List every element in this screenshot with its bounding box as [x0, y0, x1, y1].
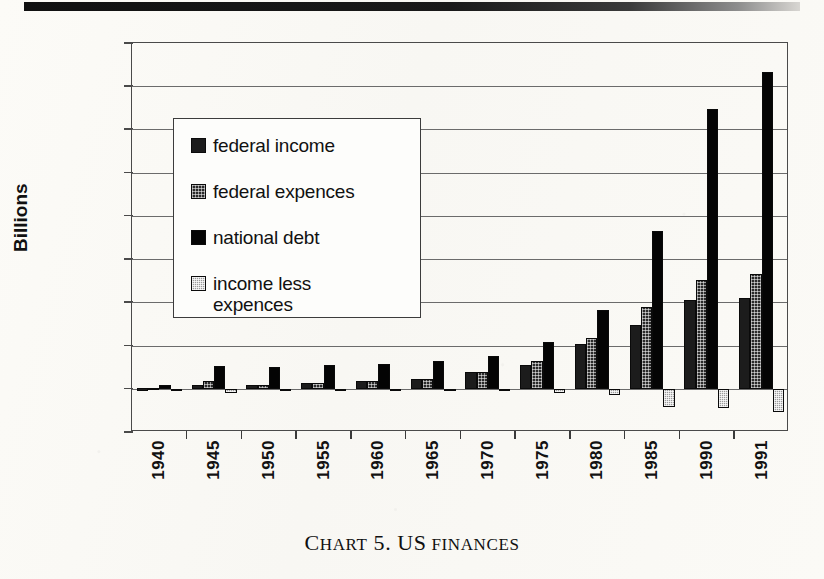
x-tick-mark [460, 431, 462, 439]
bar-1950-income-less-expences [280, 389, 291, 392]
bar-1970-federal-income [465, 372, 476, 389]
x-tick-mark [295, 431, 297, 439]
legend-label: national debt [213, 227, 319, 248]
bar-1991-federal-income [739, 298, 750, 389]
bar-1965-national-debt [433, 361, 444, 389]
caption-tail: FINANCES [427, 535, 520, 554]
x-tick-mark [569, 431, 571, 439]
bar-1980-national-debt [597, 310, 608, 389]
bar-1965-federal-expences [422, 379, 433, 389]
bar-1965-income-less-expences [444, 389, 455, 392]
bar-1975-federal-income [520, 365, 531, 389]
bar-1950-federal-expences [258, 385, 269, 389]
x-tick-label-1950: 1950 [259, 440, 279, 480]
bar-1990-federal-income [684, 300, 695, 389]
bar-1960-income-less-expences [390, 389, 401, 392]
legend-swatch-icon [191, 230, 206, 245]
x-tick-label-1985: 1985 [642, 440, 662, 480]
figure-caption: CHART 5. US FINANCES [0, 530, 824, 556]
bar-1990-national-debt [707, 109, 718, 388]
bar-1940-national-debt [159, 385, 170, 389]
bar-1980-income-less-expences [609, 389, 620, 395]
y-tick-mark [124, 431, 133, 433]
bar-1960-federal-expences [367, 381, 378, 389]
legend-label: federal income [213, 135, 335, 156]
bar-1985-national-debt [652, 231, 663, 389]
bar-1991-federal-expences [750, 274, 761, 388]
x-tick-mark [350, 431, 352, 439]
bar-1990-income-less-expences [718, 389, 729, 408]
x-tick-label-1955: 1955 [314, 440, 334, 480]
bar-1970-national-debt [488, 356, 499, 389]
bar-1991-national-debt [762, 72, 773, 389]
caption-number: 5. US [367, 530, 426, 555]
x-tick-mark [733, 431, 735, 439]
bar-1940-federal-income [137, 388, 148, 391]
x-tick-label-1965: 1965 [423, 440, 443, 480]
bar-1945-federal-income [192, 385, 203, 389]
legend-label: federal expences [213, 181, 355, 202]
bar-1990-federal-expences [696, 280, 707, 388]
legend-swatch-icon [191, 138, 206, 153]
x-tick-mark [186, 431, 188, 439]
x-tick-label-1980: 1980 [587, 440, 607, 480]
x-tick-label-1975: 1975 [533, 440, 553, 480]
bar-1955-income-less-expences [335, 389, 346, 392]
bar-1975-income-less-expences [554, 389, 565, 393]
bar-1980-federal-expences [586, 338, 597, 389]
bar-1940-income-less-expences [171, 389, 182, 392]
legend-item-federal-expences[interactable]: federal expences [191, 181, 355, 202]
bar-1985-income-less-expences [663, 389, 674, 407]
bar-1940-federal-expences [148, 388, 159, 391]
bar-1945-national-debt [214, 366, 225, 388]
bar-1945-federal-expences [203, 381, 214, 389]
legend-item-income-less-expences[interactable]: income less expences [191, 273, 311, 315]
x-tick-label-1960: 1960 [368, 440, 388, 480]
bar-1945-income-less-expences [225, 389, 236, 393]
legend-label: income less expences [213, 273, 311, 315]
bar-1975-national-debt [543, 342, 554, 389]
bar-1955-national-debt [324, 365, 335, 389]
x-tick-mark [624, 431, 626, 439]
y-axis-ticks: 40003500300025002000150010005000-500 [0, 0, 124, 579]
legend-swatch-icon [191, 276, 206, 291]
caption-word: HART [320, 535, 368, 554]
x-tick-label-1990: 1990 [697, 440, 717, 480]
bar-1991-income-less-expences [773, 389, 784, 412]
x-tick-label-1991: 1991 [752, 440, 772, 480]
bar-1955-federal-income [301, 383, 312, 389]
bar-1970-income-less-expences [499, 389, 510, 392]
bar-1985-federal-expences [641, 307, 652, 389]
bar-1980-federal-income [575, 344, 586, 389]
legend-swatch-icon [191, 184, 206, 199]
bar-1975-federal-expences [531, 361, 542, 389]
caption-lead: C [305, 530, 320, 555]
x-tick-mark [679, 431, 681, 439]
bar-1950-federal-income [246, 385, 257, 388]
legend-item-federal-income[interactable]: federal income [191, 135, 335, 156]
bar-1960-national-debt [378, 364, 389, 389]
x-tick-mark [514, 431, 516, 439]
x-tick-label-1940: 1940 [149, 440, 169, 480]
bar-1970-federal-expences [477, 372, 488, 389]
bar-1960-federal-income [356, 381, 367, 389]
bar-1955-federal-expences [312, 383, 323, 389]
bar-1985-federal-income [630, 325, 641, 388]
x-tick-mark [241, 431, 243, 439]
chart-legend: federal incomefederal expencesnational d… [173, 118, 421, 318]
chart-figure: Billions 4000350030002500200015001000500… [0, 0, 824, 579]
bar-1950-national-debt [269, 367, 280, 389]
x-tick-label-1945: 1945 [204, 440, 224, 480]
x-tick-mark [405, 431, 407, 439]
bar-1965-federal-income [411, 379, 422, 389]
legend-item-national-debt[interactable]: national debt [191, 227, 319, 248]
x-tick-label-1970: 1970 [478, 440, 498, 480]
